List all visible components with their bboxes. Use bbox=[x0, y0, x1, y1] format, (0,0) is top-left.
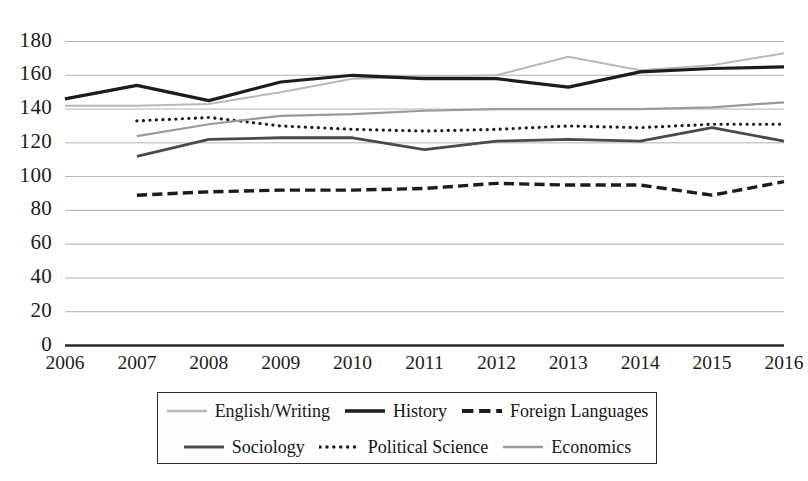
legend-label: Political Science bbox=[368, 437, 488, 458]
legend-row: SociologyPolitical ScienceEconomics bbox=[158, 429, 656, 465]
legend-swatch-line bbox=[166, 404, 208, 418]
legend-swatch-line bbox=[461, 404, 503, 418]
y-tick-label: 180 bbox=[0, 28, 52, 53]
legend-label: Sociology bbox=[232, 437, 305, 458]
x-tick-label: 2015 bbox=[677, 352, 747, 374]
legend-item-political-science[interactable]: Political Science bbox=[319, 437, 488, 458]
legend-label: English/Writing bbox=[215, 401, 330, 422]
legend-item-history[interactable]: History bbox=[344, 401, 447, 422]
y-tick-label: 20 bbox=[0, 298, 52, 323]
y-tick-label: 140 bbox=[0, 95, 52, 120]
legend-color-swatch bbox=[166, 404, 208, 418]
y-tick-label: 80 bbox=[0, 196, 52, 221]
y-tick-label: 160 bbox=[0, 61, 52, 86]
legend-item-english-writing[interactable]: English/Writing bbox=[166, 401, 330, 422]
x-tick-label: 2013 bbox=[533, 352, 603, 374]
series-line-sociology bbox=[137, 128, 784, 157]
x-tick-label: 2006 bbox=[30, 352, 100, 374]
x-tick-label: 2012 bbox=[461, 352, 531, 374]
legend-swatch-line bbox=[344, 404, 386, 418]
y-tick-label: 40 bbox=[0, 264, 52, 289]
legend-color-swatch bbox=[344, 404, 386, 418]
legend-color-swatch bbox=[319, 440, 361, 454]
legend-swatch-line bbox=[183, 440, 225, 454]
legend-color-swatch bbox=[502, 440, 544, 454]
legend-row: English/WritingHistoryForeign Languages bbox=[158, 393, 656, 429]
series-line-foreign-languages bbox=[137, 182, 784, 196]
legend-label: History bbox=[393, 401, 447, 422]
legend-label: Foreign Languages bbox=[510, 401, 648, 422]
legend-color-swatch bbox=[461, 404, 503, 418]
series-line-history bbox=[65, 67, 784, 101]
x-tick-label: 2007 bbox=[102, 352, 172, 374]
series-line-political-science bbox=[137, 118, 784, 132]
x-tick-label: 2016 bbox=[749, 352, 808, 374]
legend-color-swatch bbox=[183, 440, 225, 454]
legend-label: Economics bbox=[551, 437, 631, 458]
y-tick-label: 120 bbox=[0, 129, 52, 154]
x-tick-label: 2008 bbox=[174, 352, 244, 374]
legend-item-sociology[interactable]: Sociology bbox=[183, 437, 305, 458]
legend-swatch-line bbox=[502, 440, 544, 454]
legend-item-foreign-languages[interactable]: Foreign Languages bbox=[461, 401, 648, 422]
legend-swatch-line bbox=[319, 440, 361, 454]
x-tick-label: 2011 bbox=[390, 352, 460, 374]
x-tick-label: 2010 bbox=[318, 352, 388, 374]
x-tick-label: 2014 bbox=[605, 352, 675, 374]
y-tick-label: 60 bbox=[0, 230, 52, 255]
data-series-group bbox=[65, 53, 784, 195]
y-tick-label: 100 bbox=[0, 163, 52, 188]
x-tick-label: 2009 bbox=[246, 352, 316, 374]
legend-item-economics[interactable]: Economics bbox=[502, 437, 631, 458]
chart-legend: English/WritingHistoryForeign Languages … bbox=[157, 392, 657, 464]
